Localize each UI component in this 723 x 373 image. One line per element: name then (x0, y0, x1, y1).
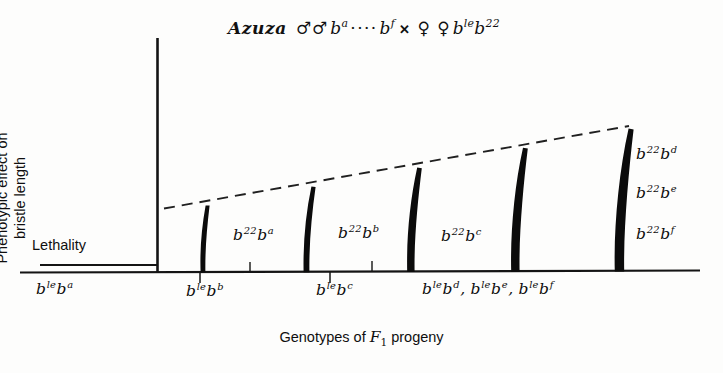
y-axis-title-line2: bristle length (12, 78, 30, 318)
paternal-allele-1: ba (330, 18, 348, 38)
cross-symbol: ✕ (399, 22, 410, 37)
annotation-b22-bc: b22bc (441, 229, 482, 245)
annotation-b22-bb: b22bb (338, 226, 380, 242)
x-axis-title-prefix: Genotypes of (279, 329, 369, 345)
dashed-trend-line (164, 126, 629, 209)
x-axis-title: Genotypes of F1 progeny (0, 330, 723, 346)
axis-label-ble-be: blebe (471, 280, 509, 298)
plot-canvas (0, 0, 723, 373)
axis-label-ble-bb: blebb (186, 284, 224, 300)
axis-label-lethality-genotype: bleba (36, 282, 74, 298)
y-axis-title-line1: Phenotypic effect on (0, 78, 12, 318)
annotation-b22-ba: b22ba (233, 228, 274, 244)
male-symbols: ♂♂ (296, 18, 328, 38)
cross-title: Azuza♂♂ba····bf✕♀ ♀bleb22 (228, 20, 500, 37)
range-bar-3 (407, 168, 422, 272)
label-separator-1: , (460, 280, 470, 298)
x-axis-line (20, 271, 700, 273)
lethality-label: Lethality (32, 238, 86, 253)
f1-generation-symbol: F1 (370, 328, 387, 346)
range-bar-2 (304, 187, 316, 273)
x-axis-title-suffix: progeny (387, 329, 443, 345)
axis-label-ble-bc: blebc (316, 283, 353, 299)
ellipsis-dots: ···· (350, 18, 377, 38)
annotation-b22-bd: b22bd (636, 147, 678, 163)
female-symbols: ♀ ♀ (417, 18, 450, 38)
axis-label-ble-group: blebd, blebe, blebf (422, 282, 554, 298)
figure-panel: Azuza♂♂ba····bf✕♀ ♀bleb22 Phenotypic eff… (0, 0, 723, 373)
paternal-allele-2: bf (380, 18, 396, 38)
phenotype-range-bars (200, 129, 633, 273)
maternal-allele-1: ble (453, 18, 475, 38)
strain-name: Azuza (228, 18, 287, 38)
range-bar-5 (615, 129, 634, 272)
axis-label-ble-bd: blebd (422, 280, 460, 298)
annotation-b22-bf: b22bf (636, 227, 675, 243)
label-separator-2: , (508, 280, 518, 298)
annotation-b22-be: b22be (636, 186, 677, 202)
range-bar-1 (200, 206, 209, 273)
axis-label-ble-bf: blebf (519, 280, 555, 298)
maternal-allele-2: b22 (474, 18, 500, 38)
range-bar-4 (511, 148, 528, 272)
